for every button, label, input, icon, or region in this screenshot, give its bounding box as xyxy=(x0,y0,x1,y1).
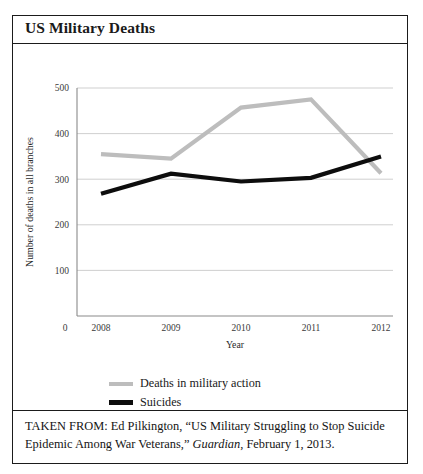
chart-plot-area: 100200300400500 020082009201020112012 Nu… xyxy=(13,44,407,374)
x-axis-origin-label: 0 xyxy=(63,323,68,333)
y-tick-label-100: 100 xyxy=(55,266,70,276)
figure-page: US Military Deaths 100200300400500 02008… xyxy=(0,0,423,474)
y-axis-title: Number of deaths in all branches xyxy=(24,137,35,267)
caption-publication: Guardian xyxy=(193,437,241,451)
page-title: US Military Deaths xyxy=(25,19,155,37)
legend-item-deaths-in-military-action: Deaths in military action xyxy=(109,374,389,393)
legend-color-swatch-black xyxy=(109,400,133,405)
axis-lines xyxy=(77,88,393,316)
y-tick-labels: 100200300400500 xyxy=(55,83,70,275)
y-tick-label-300: 300 xyxy=(55,175,70,185)
title-bar: US Military Deaths xyxy=(13,16,407,44)
x-tick-label-2012: 2012 xyxy=(372,323,391,333)
x-tick-label-2008: 2008 xyxy=(92,323,111,333)
y-tick-label-400: 400 xyxy=(55,129,70,139)
line-chart: 100200300400500 020082009201020112012 Nu… xyxy=(13,44,407,374)
x-tick-label-2010: 2010 xyxy=(232,323,251,333)
series-line-deaths-in-military-action xyxy=(101,99,381,173)
legend-color-swatch-gray xyxy=(109,382,133,386)
y-tick-label-500: 500 xyxy=(55,83,70,93)
legend-label-suicides: Suicides xyxy=(140,395,181,410)
legend-label-deaths-in-military-action: Deaths in military action xyxy=(140,376,261,391)
chart-legend: Deaths in military action Suicides xyxy=(109,374,389,412)
caption-suffix: , February 1, 2013. xyxy=(240,437,334,451)
y-tick-label-200: 200 xyxy=(55,220,70,230)
source-caption: TAKEN FROM: Ed Pilkington, “US Military … xyxy=(25,418,397,454)
x-tick-label-2011: 2011 xyxy=(302,323,321,333)
series-line-suicides xyxy=(101,156,381,193)
x-tick-label-2009: 2009 xyxy=(162,323,181,333)
x-tick-labels: 020082009201020112012 xyxy=(63,323,391,333)
figure-box: US Military Deaths 100200300400500 02008… xyxy=(12,15,408,464)
x-axis-title: Year xyxy=(226,339,245,350)
caption-divider xyxy=(13,410,407,411)
